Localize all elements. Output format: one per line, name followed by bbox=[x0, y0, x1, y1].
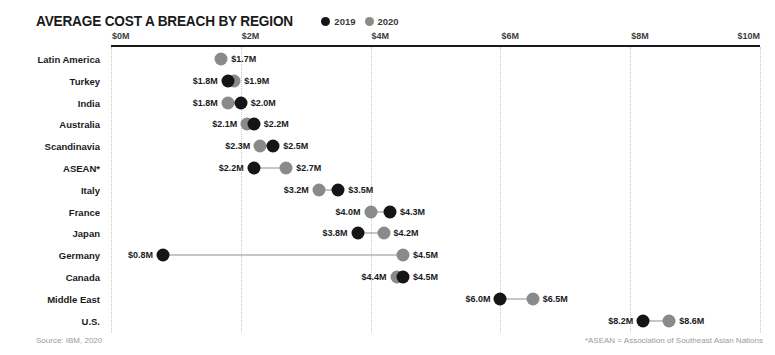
gridline bbox=[760, 47, 762, 333]
gridline bbox=[500, 47, 502, 333]
data-value-label: $1.7M bbox=[231, 54, 256, 64]
data-point-2020[interactable] bbox=[280, 162, 293, 175]
source-note: Source: IBM, 2020 bbox=[36, 336, 102, 345]
data-point-2020[interactable] bbox=[364, 205, 377, 218]
x-tick-label: $10M bbox=[737, 31, 760, 41]
data-value-label: $2.3M bbox=[225, 141, 250, 151]
data-value-label: $6.0M bbox=[465, 294, 490, 304]
data-value-label: $2.2M bbox=[219, 163, 244, 173]
data-point-2019[interactable] bbox=[494, 292, 507, 305]
asean-footnote: *ASEAN = Association of Southeast Asian … bbox=[585, 336, 763, 345]
category-label: U.S. bbox=[82, 315, 100, 326]
data-point-2019[interactable] bbox=[221, 74, 234, 87]
data-point-2020[interactable] bbox=[312, 183, 325, 196]
data-point-2019[interactable] bbox=[637, 314, 650, 327]
plot-area: $0M$2M$4M$6M$8M$10MLatin America$1.7MTur… bbox=[0, 0, 775, 355]
data-point-2020[interactable] bbox=[397, 249, 410, 262]
category-label: Latin America bbox=[38, 54, 100, 65]
data-point-2019[interactable] bbox=[332, 183, 345, 196]
data-value-label: $2.1M bbox=[212, 119, 237, 129]
data-value-label: $1.8M bbox=[193, 98, 218, 108]
data-point-2019[interactable] bbox=[156, 249, 169, 262]
data-value-label: $1.8M bbox=[193, 76, 218, 86]
category-label: India bbox=[78, 97, 100, 108]
data-value-label: $2.5M bbox=[283, 141, 308, 151]
data-value-label: $6.5M bbox=[543, 294, 568, 304]
data-point-2019[interactable] bbox=[384, 205, 397, 218]
category-label: ASEAN* bbox=[63, 163, 100, 174]
data-point-2020[interactable] bbox=[663, 314, 676, 327]
category-label: Japan bbox=[73, 228, 100, 239]
gridline bbox=[111, 47, 113, 333]
data-value-label: $4.5M bbox=[413, 272, 438, 282]
x-tick-label: $4M bbox=[372, 31, 390, 41]
data-point-2020[interactable] bbox=[221, 96, 234, 109]
data-value-label: $3.5M bbox=[348, 185, 373, 195]
category-label: France bbox=[69, 206, 100, 217]
data-value-label: $3.2M bbox=[284, 185, 309, 195]
category-label: Italy bbox=[81, 184, 100, 195]
data-value-label: $4.2M bbox=[394, 228, 419, 238]
x-tick-label: $6M bbox=[501, 31, 519, 41]
x-axis-rule bbox=[111, 45, 760, 47]
category-label: Middle East bbox=[47, 293, 100, 304]
data-point-2020[interactable] bbox=[254, 140, 267, 153]
data-point-2019[interactable] bbox=[234, 96, 247, 109]
data-value-label: $4.5M bbox=[413, 250, 438, 260]
data-point-2019[interactable] bbox=[247, 162, 260, 175]
gridline bbox=[241, 47, 243, 333]
chart-container: AVERAGE COST A BREACH BY REGION 2019 202… bbox=[0, 0, 775, 355]
data-point-2020[interactable] bbox=[377, 227, 390, 240]
data-value-label: $2.2M bbox=[264, 119, 289, 129]
data-point-2020[interactable] bbox=[215, 53, 228, 66]
category-label: Canada bbox=[66, 272, 100, 283]
x-tick-label: $0M bbox=[112, 31, 130, 41]
connector-line bbox=[163, 255, 403, 256]
data-value-label: $4.4M bbox=[362, 272, 387, 282]
category-label: Scandinavia bbox=[45, 141, 100, 152]
data-value-label: $2.0M bbox=[251, 98, 276, 108]
data-value-label: $1.9M bbox=[244, 76, 269, 86]
data-value-label: $0.8M bbox=[128, 250, 153, 260]
data-point-2019[interactable] bbox=[247, 118, 260, 131]
category-label: Germany bbox=[59, 250, 100, 261]
data-point-2019[interactable] bbox=[351, 227, 364, 240]
category-label: Turkey bbox=[70, 75, 100, 86]
x-tick-label: $2M bbox=[242, 31, 260, 41]
data-point-2020[interactable] bbox=[526, 292, 539, 305]
x-tick-label: $8M bbox=[631, 31, 649, 41]
data-value-label: $2.7M bbox=[296, 163, 321, 173]
data-point-2019[interactable] bbox=[267, 140, 280, 153]
data-value-label: $8.2M bbox=[608, 316, 633, 326]
data-value-label: $3.8M bbox=[323, 228, 348, 238]
category-label: Australia bbox=[59, 119, 100, 130]
data-value-label: $4.3M bbox=[400, 207, 425, 217]
data-point-2019[interactable] bbox=[397, 271, 410, 284]
data-value-label: $8.6M bbox=[679, 316, 704, 326]
gridline bbox=[630, 47, 632, 333]
data-value-label: $4.0M bbox=[336, 207, 361, 217]
